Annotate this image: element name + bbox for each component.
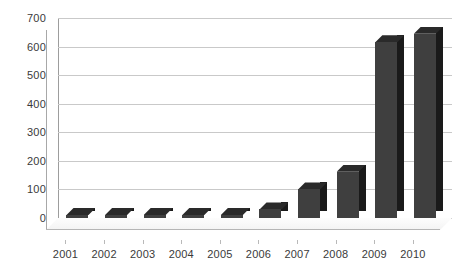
bar [414,34,436,218]
bar-chart: 700 600 500 400 300 200 100 0 2001200220… [0,0,462,278]
bar [337,172,359,218]
y-axis: 700 600 500 400 300 200 100 0 [8,0,46,278]
y-axis-tick-label: 400 [8,99,46,110]
y-axis-tick-label: 200 [8,156,46,167]
bar [144,215,166,218]
y-axis-front-edge [46,30,47,230]
x-axis-tickmark [258,240,259,244]
y-axis-line [58,18,59,218]
bar [375,42,397,218]
bar-side-face [359,165,366,211]
x-axis-tickmark [297,240,298,244]
bar-side-face [397,35,404,211]
plot-area [46,18,452,230]
x-axis-tickmark [143,240,144,244]
bar [105,215,127,218]
bar [298,189,320,218]
y-axis-tick-label: 100 [8,184,46,195]
x-axis-tickmark [65,240,66,244]
x-axis-tickmark [374,240,375,244]
x-axis-tickmark [220,240,221,244]
gridline [58,18,452,19]
bar [259,209,281,218]
x-axis-tick-label: 2010 [390,248,436,260]
x-axis-tickmark [104,240,105,244]
y-axis-tick-label: 500 [8,70,46,81]
bar [221,215,243,218]
y-axis-tick-label: 600 [8,42,46,53]
x-axis-tickmark [336,240,337,244]
bar [182,215,204,218]
x-axis-line [46,229,440,230]
x-axis: 2001200220032004200520062007200820092010 [46,248,452,264]
y-axis-tick-label: 700 [8,13,46,24]
x-axis-tickmark [181,240,182,244]
bar-side-face [436,27,443,211]
x-axis-tickmark [413,240,414,244]
bar [66,215,88,218]
y-axis-tick-label: 300 [8,127,46,138]
y-axis-tick-label: 0 [8,213,46,224]
